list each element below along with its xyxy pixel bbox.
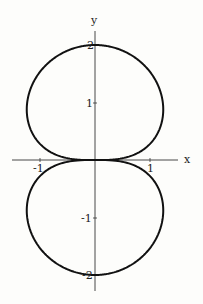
y-tick-label: -2	[82, 269, 93, 282]
y-axis-label: y	[90, 14, 98, 27]
x-axis-label: x	[184, 153, 191, 166]
y-tick-label: 1	[86, 97, 93, 110]
polar-plot: y x -1 1 2 1 -1 -2	[0, 0, 203, 304]
x-tick-label: 1	[147, 162, 154, 175]
y-tick-label: 2	[87, 39, 94, 52]
y-tick-label: -1	[81, 212, 92, 225]
x-tick-label: -1	[33, 162, 44, 175]
